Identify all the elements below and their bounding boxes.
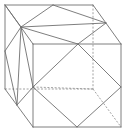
cube-diagram xyxy=(0,0,125,132)
edge-M_right-M_front_top xyxy=(78,44,121,87)
solid-edges xyxy=(5,5,121,127)
edge-M_right_top-M_front_top xyxy=(78,23,106,44)
edge-M_top-P xyxy=(21,5,53,27)
edge-M_low_left-M_front_left xyxy=(17,87,33,105)
hidden-edge-F-G xyxy=(93,89,121,127)
edge-A-P xyxy=(5,5,21,27)
edge-P-M_left xyxy=(5,27,21,51)
edge-M_front_top-M_front_left xyxy=(33,44,78,87)
edge-B-C xyxy=(93,5,121,44)
edge-M_bottom-M_right xyxy=(77,87,121,127)
edge-E-H xyxy=(5,89,33,127)
edge-M_front_left-M_bottom xyxy=(33,87,77,127)
edge-M_top-M_right_top xyxy=(53,5,106,23)
edge-P-M_low_left xyxy=(17,27,21,105)
edge-P-M_front_top xyxy=(21,27,78,44)
